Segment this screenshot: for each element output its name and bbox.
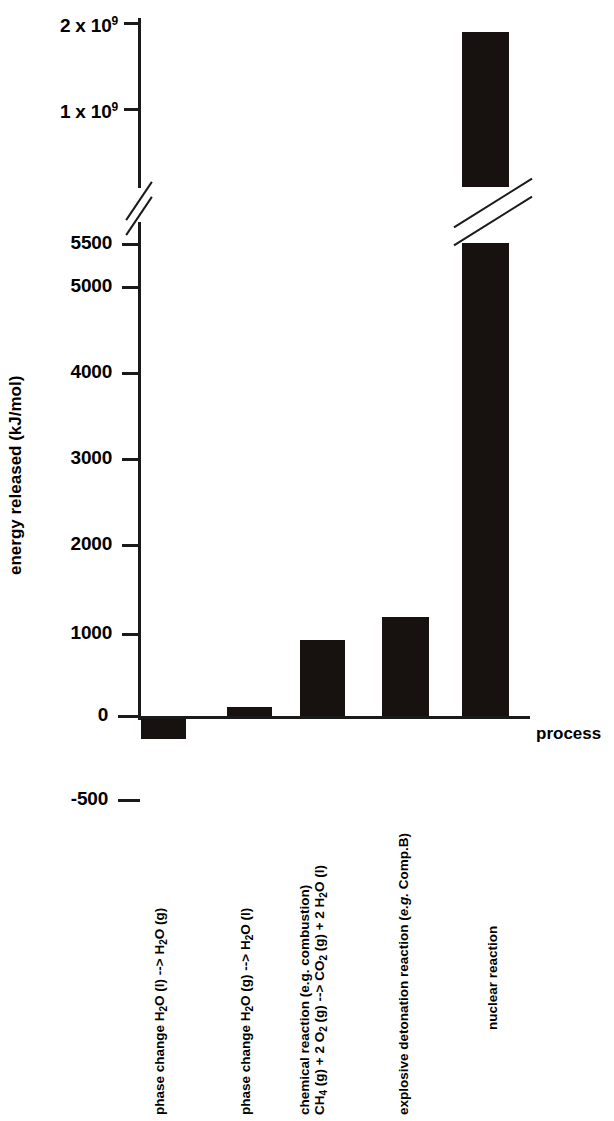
bar-nuclear-reaction-upper-segment [462,32,509,187]
x-axis-title: process [536,724,601,744]
x-label-3-part-c: (g) --> CO [312,961,327,1027]
y-axis-upper-segment [138,18,141,188]
y-tick-3000 [122,458,138,461]
y-tick-4000 [122,372,138,375]
y-tick-label-0: 0 [30,705,108,724]
x-label-1-part-b: O (l) --> H [152,945,167,1006]
bar-phase-change-liquid-to-gas [141,719,186,739]
x-label-1-sub-1: 2 [158,1006,169,1012]
x-label-nuclear-reaction: nuclear reaction [485,926,500,1030]
x-label-2-part-c: O (l) [238,908,253,935]
y-axis-lower-segment [138,222,141,720]
y-tick-0 [118,715,140,718]
x-label-3-line-1: chemical reaction (e.g. combustion) [297,865,312,1115]
x-label-3-line-2: CH4 (g) + 2 O2 (g) --> CO2 (g) + 2 H2O (… [312,865,331,1115]
x-label-2-sub-2: 2 [244,935,255,941]
x-label-1-part-c: O (g) [152,908,167,940]
y-tick-label-2e9-exponent: 9 [112,14,118,28]
x-label-chemical-reaction: chemical reaction (e.g. combustion) CH4 … [297,865,331,1115]
x-label-phase-change-liquid-to-gas: phase change H2O (l) --> H2O (g) [152,908,171,1115]
y-tick-neg500 [118,799,140,802]
y-tick-5500 [122,243,138,246]
x-label-3-part-b: (g) + 2 O [312,1032,327,1090]
bar-nuclear-reaction-lower-segment [462,243,509,716]
y-tick-label-1e9: 1 x 109 [22,98,118,121]
y-tick-5000 [122,286,138,289]
x-label-2-part-b: O (g) --> H [238,940,253,1006]
x-label-3-sub-4: 2 [318,892,329,898]
x-axis-line [138,716,530,719]
bar-chart: 2 x 109 1 x 109 5500 5000 4000 3000 2000… [0,0,614,1121]
y-tick-label-1e9-exponent: 9 [112,100,118,114]
y-tick-1e9 [124,108,140,111]
x-label-2-part-a: phase change H [238,1011,253,1115]
y-tick-label-1000: 1000 [30,623,112,642]
x-label-phase-change-gas-to-liquid: phase change H2O (g) --> H2O (l) [238,908,257,1115]
y-tick-1000 [122,633,138,636]
y-tick-label-4000: 4000 [30,362,112,381]
x-label-3-sub-3: 2 [318,955,329,961]
y-tick-label-3000: 3000 [30,448,112,467]
y-tick-label-5500: 5500 [30,233,112,252]
y-tick-label-2e9-mantissa: 2 x 10 [60,15,112,36]
x-label-3-sub-2: 2 [318,1026,329,1032]
x-label-explosive-detonation-reaction: explosive detonation reaction (e.g. Comp… [396,833,411,1115]
x-label-3-part-a: CH [312,1096,327,1116]
x-label-4-part-b: Comp.B) [396,833,411,893]
x-label-3-part-e: O (l) [312,865,327,892]
x-label-4-part-a: explosive detonation reaction ( [396,916,411,1115]
y-tick-label-2e9: 2 x 109 [22,12,118,35]
y-tick-label-1e9-mantissa: 1 x 10 [60,101,112,122]
x-label-1-sub-2: 2 [158,939,169,945]
x-label-4-emphasis: e.g. [396,893,411,916]
y-tick-2000 [122,544,138,547]
y-tick-label-5000: 5000 [30,276,112,295]
bar-phase-change-gas-to-liquid [227,707,272,716]
bar-chemical-reaction [300,640,345,716]
x-label-3-sub-1: 4 [318,1090,329,1096]
x-label-1-part-a: phase change H [152,1011,167,1115]
y-axis-title: energy released (kJ/mol) [6,376,26,575]
y-tick-label-neg500: -500 [20,789,108,808]
y-tick-2e9 [124,22,140,25]
x-label-2-sub-1: 2 [244,1006,255,1012]
bar-explosive-detonation-reaction [382,617,429,716]
y-tick-label-2000: 2000 [30,534,112,553]
x-label-3-part-d: (g) + 2 H [312,898,327,955]
